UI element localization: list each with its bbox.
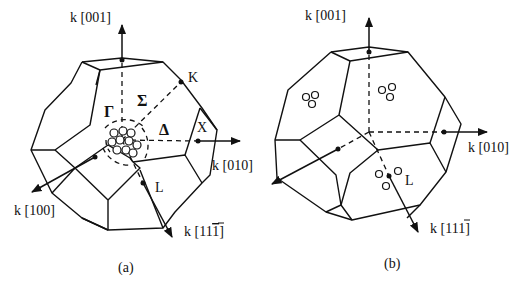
gamma-pockets: [108, 127, 141, 157]
label-k100: k [100]: [14, 203, 55, 218]
pockets-top-face: [379, 84, 396, 101]
brillouin-zone-figure: k [001] k [010] k [100] k [111] Γ Σ Δ K …: [0, 0, 528, 283]
axis-k100: [32, 157, 95, 192]
label-K: K: [188, 70, 198, 85]
label-delta: Δ: [159, 121, 169, 138]
pockets-left-face: [303, 92, 319, 108]
label-k001: k [001]: [70, 10, 111, 25]
axis-k111bar: [389, 176, 418, 232]
label-L: L: [405, 173, 414, 188]
label-k111bar: k [111]: [184, 224, 224, 239]
pockets-L-face: [376, 168, 402, 190]
label-k010: k [010]: [468, 140, 509, 155]
caption-b: (b): [384, 256, 401, 272]
panel-b: k [001] k [010] k [111] L (b): [272, 8, 509, 272]
label-sigma: Σ: [137, 92, 147, 109]
label-k010: k [010]: [212, 158, 253, 173]
label-gamma: Γ: [104, 103, 114, 120]
panel-a: k [001] k [010] k [100] k [111] Γ Σ Δ K …: [14, 10, 253, 276]
label-X: X: [197, 120, 207, 135]
caption-a: (a): [118, 260, 134, 276]
label-k111bar: k [111]: [430, 221, 470, 236]
label-k001: k [001]: [305, 8, 346, 23]
label-L: L: [155, 180, 164, 195]
